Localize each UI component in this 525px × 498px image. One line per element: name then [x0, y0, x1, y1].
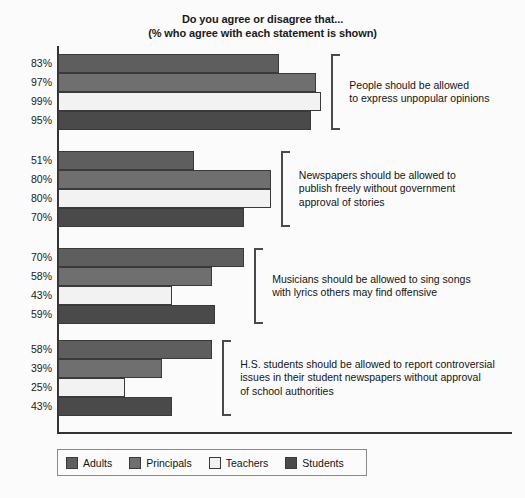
bar	[58, 111, 311, 130]
statement-label: H.S. students should be allowed to repor…	[240, 358, 494, 399]
legend-label: Teachers	[226, 457, 269, 469]
legend-label: Adults	[83, 457, 112, 469]
bar	[58, 73, 316, 92]
bar-value-label: 97%	[8, 76, 52, 89]
legend-item[interactable]: Students	[285, 457, 343, 469]
bar	[58, 397, 172, 416]
bar	[58, 151, 194, 170]
legend-swatch-icon	[129, 457, 141, 469]
x-axis-line	[57, 432, 512, 434]
statement-label: People should be allowedto express unpop…	[349, 79, 489, 106]
bar-value-label: 70%	[8, 251, 52, 264]
legend-swatch-icon	[285, 457, 297, 469]
chart-legend: AdultsPrincipalsTeachersStudents	[57, 449, 367, 476]
statement-label: Musicians should be allowed to sing song…	[272, 273, 470, 300]
bar-value-label: 95%	[8, 114, 52, 127]
bar-value-label: 39%	[8, 362, 52, 375]
legend-label: Principals	[146, 457, 192, 469]
legend-swatch-icon	[66, 457, 78, 469]
bar-value-label: 80%	[8, 173, 52, 186]
statement-line: approval of stories	[299, 196, 456, 210]
bar	[58, 267, 212, 286]
statement-label: Newspapers should be allowed topublish f…	[299, 169, 456, 210]
group-bracket	[222, 340, 231, 416]
legend-item[interactable]: Adults	[66, 457, 112, 469]
bar-value-label: 43%	[8, 400, 52, 413]
bar-value-label: 83%	[8, 57, 52, 70]
chart-container: Do you agree or disagree that... (% who …	[0, 0, 525, 498]
bar	[58, 359, 162, 378]
bar	[58, 248, 244, 267]
bar-value-label: 58%	[8, 343, 52, 356]
bar-value-label: 58%	[8, 270, 52, 283]
statement-line: of school authorities	[240, 385, 494, 399]
bar-value-label: 43%	[8, 289, 52, 302]
group-bracket	[254, 248, 263, 324]
bar-row: 58%	[0, 340, 525, 359]
group-bracket	[331, 54, 340, 130]
bar-row: 83%	[0, 54, 525, 73]
legend-swatch-icon	[209, 457, 221, 469]
statement-line: with lyrics others may find offensive	[272, 286, 470, 300]
bar	[58, 189, 271, 208]
statement-line: People should be allowed	[349, 79, 489, 93]
bar	[58, 92, 321, 111]
statement-line: Musicians should be allowed to sing song…	[272, 273, 470, 287]
bar-row: 43%	[0, 397, 525, 416]
legend-item[interactable]: Teachers	[209, 457, 269, 469]
statement-line: to express unpopular opinions	[349, 92, 489, 106]
bar-value-label: 99%	[8, 95, 52, 108]
bar	[58, 170, 271, 189]
statement-line: H.S. students should be allowed to repor…	[240, 358, 494, 372]
chart-title: Do you agree or disagree that...	[0, 12, 525, 26]
bar	[58, 286, 172, 305]
bar-value-label: 59%	[8, 308, 52, 321]
plot-area: 83%97%99%95%51%80%80%70%70%58%43%59%58%3…	[0, 46, 525, 438]
bar	[58, 305, 215, 324]
bar	[58, 54, 279, 73]
bar	[58, 378, 125, 397]
bar-value-label: 80%	[8, 192, 52, 205]
statement-line: Newspapers should be allowed to	[299, 169, 456, 183]
group-bracket	[281, 151, 290, 227]
bar-row: 95%	[0, 111, 525, 130]
statement-line: publish freely without government	[299, 182, 456, 196]
statement-line: issues in their student newspapers witho…	[240, 371, 494, 385]
bar-row: 70%	[0, 208, 525, 227]
chart-title-block: Do you agree or disagree that... (% who …	[0, 12, 525, 40]
chart-subtitle: (% who agree with each statement is show…	[0, 26, 525, 40]
legend-item[interactable]: Principals	[129, 457, 192, 469]
bar	[58, 208, 244, 227]
bar-value-label: 51%	[8, 154, 52, 167]
legend-label: Students	[302, 457, 343, 469]
bar-value-label: 25%	[8, 381, 52, 394]
bar	[58, 340, 212, 359]
bar-row: 51%	[0, 151, 525, 170]
bar-value-label: 70%	[8, 211, 52, 224]
